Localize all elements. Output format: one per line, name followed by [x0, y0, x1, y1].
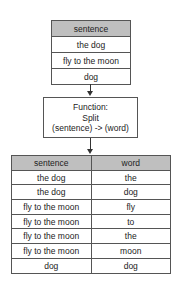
- cell: the dog: [12, 185, 92, 200]
- function-box: Function: Split (sentence) -> (word): [43, 97, 138, 138]
- input-header: sentence: [52, 21, 131, 37]
- output-table: sentence word the dogthe the dogdog fly …: [11, 155, 171, 274]
- arrow-down-icon: [87, 149, 93, 154]
- cell: moon: [91, 244, 171, 259]
- cell: fly to the moon: [12, 200, 92, 215]
- table-row: the dogthe: [12, 170, 171, 185]
- cell: the: [91, 170, 171, 185]
- cell: fly to the moon: [12, 229, 92, 244]
- table-row: fly to the moonfly: [12, 200, 171, 215]
- output-header-word: word: [91, 156, 171, 171]
- table-row: fly to the moonthe: [12, 229, 171, 244]
- input-cell: the dog: [52, 37, 131, 53]
- function-label: Function:: [44, 102, 137, 113]
- table-row: fly to the moonto: [12, 214, 171, 229]
- output-header-sentence: sentence: [12, 156, 92, 171]
- cell: dog: [12, 258, 92, 273]
- function-signature: (sentence) -> (word): [44, 123, 137, 134]
- input-table: sentence the dog fly to the moon dog: [51, 20, 131, 85]
- table-row: dogdog: [12, 258, 171, 273]
- table-row: fly to the moonmoon: [12, 244, 171, 259]
- cell: fly to the moon: [12, 244, 92, 259]
- cell: dog: [91, 185, 171, 200]
- cell: dog: [91, 258, 171, 273]
- arrow-down-icon: [87, 91, 93, 96]
- cell: fly: [91, 200, 171, 215]
- table-row: the dogdog: [12, 185, 171, 200]
- cell: the: [91, 229, 171, 244]
- input-cell: dog: [52, 69, 131, 85]
- cell: fly to the moon: [12, 214, 92, 229]
- cell: to: [91, 214, 171, 229]
- function-name: Split: [44, 113, 137, 124]
- input-cell: fly to the moon: [52, 53, 131, 69]
- cell: the dog: [12, 170, 92, 185]
